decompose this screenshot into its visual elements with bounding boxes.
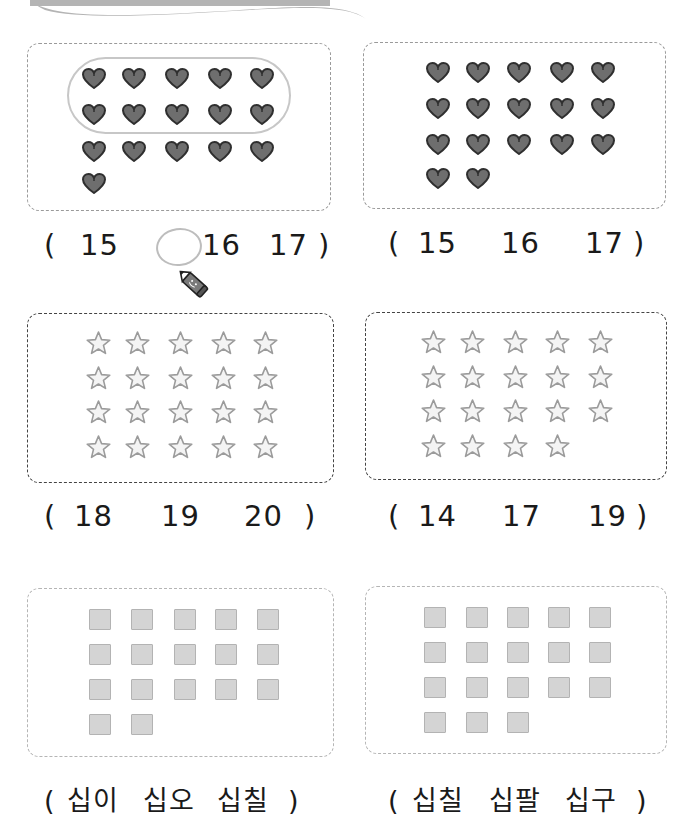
heart-icon [549, 61, 575, 84]
choice-2[interactable]: 19 [161, 496, 200, 536]
choice-2-selected[interactable]: 16 [202, 225, 241, 265]
heart-icon [506, 133, 532, 156]
star-icon [167, 434, 194, 460]
star-icon [502, 364, 529, 390]
square-block-icon [466, 642, 488, 663]
heart-icon [465, 133, 491, 156]
heart-icon [465, 97, 491, 120]
square-block-icon [131, 679, 153, 700]
choice-3[interactable]: 17 [269, 225, 308, 265]
heart-icon [465, 167, 491, 190]
star-icon [502, 329, 529, 355]
square-block-icon [89, 679, 111, 700]
square-block-icon [507, 642, 529, 663]
heart-icon [121, 67, 147, 90]
heart-icon [164, 67, 190, 90]
open-paren: ( [44, 781, 56, 821]
star-icon [544, 364, 571, 390]
open-paren: ( [388, 496, 400, 536]
star-icon [85, 365, 112, 391]
heart-icon [465, 61, 491, 84]
star-icon [85, 434, 112, 460]
close-paren: ) [636, 781, 648, 821]
star-icon [124, 399, 151, 425]
choice-3[interactable]: 19 [588, 496, 627, 536]
square-block-icon [215, 644, 237, 665]
choice-1[interactable]: 십칠 [412, 781, 464, 821]
star-icon [210, 330, 237, 356]
choice-2[interactable]: 17 [502, 496, 541, 536]
heart-icon [207, 140, 233, 163]
choice-1[interactable]: 18 [74, 496, 113, 536]
square-block-icon [548, 677, 570, 698]
star-icon [544, 329, 571, 355]
close-paren: ) [636, 496, 648, 536]
heart-icon [121, 140, 147, 163]
square-block-icon [424, 607, 446, 628]
heart-icon [590, 97, 616, 120]
star-icon [420, 364, 447, 390]
heart-icon [249, 103, 275, 126]
heart-icon [164, 140, 190, 163]
square-block-icon [589, 607, 611, 628]
star-icon [420, 398, 447, 424]
star-icon [587, 364, 614, 390]
open-paren: ( [44, 496, 56, 536]
heart-icon [590, 61, 616, 84]
choice-1[interactable]: 14 [418, 496, 457, 536]
open-paren: ( [44, 225, 56, 265]
square-block-icon [89, 644, 111, 665]
choice-1[interactable]: 십이 [67, 781, 119, 821]
choice-3[interactable]: 20 [244, 496, 283, 536]
star-icon [124, 434, 151, 460]
star-icon [252, 434, 279, 460]
choice-3[interactable]: 십칠 [217, 781, 269, 821]
choice-2[interactable]: 16 [501, 223, 540, 263]
heart-icon [549, 133, 575, 156]
square-block-icon [131, 644, 153, 665]
square-block-icon [589, 642, 611, 663]
choice-1[interactable]: 15 [418, 223, 457, 263]
choice-3[interactable]: 십구 [565, 781, 617, 821]
heart-icon [249, 140, 275, 163]
square-block-icon [466, 712, 488, 733]
problem-4-answer-row: ( 14 17 19 ) [388, 496, 678, 536]
square-block-icon [89, 714, 111, 735]
star-icon [459, 433, 486, 459]
star-icon [502, 433, 529, 459]
star-icon [252, 399, 279, 425]
heart-icon [81, 172, 107, 195]
choice-1[interactable]: 15 [80, 225, 119, 265]
star-icon [459, 398, 486, 424]
square-block-icon [215, 609, 237, 630]
square-block-icon [548, 642, 570, 663]
star-icon [85, 330, 112, 356]
star-icon [587, 329, 614, 355]
star-icon [459, 364, 486, 390]
star-icon [85, 399, 112, 425]
square-block-icon [507, 677, 529, 698]
star-icon [210, 434, 237, 460]
heart-icon [425, 167, 451, 190]
choice-2[interactable]: 십오 [143, 781, 195, 821]
close-paren: ) [633, 223, 645, 263]
star-icon [210, 365, 237, 391]
square-block-icon [424, 712, 446, 733]
open-paren: ( [388, 223, 400, 263]
heart-icon [207, 67, 233, 90]
square-block-icon [174, 609, 196, 630]
problem-2-answer-row: ( 15 16 17 ) [388, 223, 678, 263]
heart-icon [207, 103, 233, 126]
square-block-icon [466, 607, 488, 628]
heart-icon [81, 67, 107, 90]
star-icon [252, 365, 279, 391]
choice-3[interactable]: 17 [585, 223, 624, 263]
heart-icon [164, 103, 190, 126]
star-icon [420, 433, 447, 459]
square-block-icon [174, 679, 196, 700]
choice-2[interactable]: 십팔 [489, 781, 541, 821]
heart-icon [506, 61, 532, 84]
heart-icon [249, 67, 275, 90]
square-block-icon [89, 609, 111, 630]
heart-icon [121, 103, 147, 126]
